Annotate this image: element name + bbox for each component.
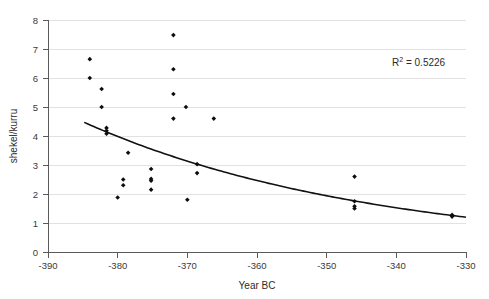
data-point bbox=[352, 206, 357, 211]
x-tick-label-380: -380 bbox=[108, 260, 127, 271]
data-point bbox=[171, 33, 176, 38]
data-point bbox=[171, 116, 176, 121]
x-tick-label-330: -330 bbox=[456, 260, 475, 271]
data-point bbox=[184, 105, 189, 110]
data-point bbox=[99, 105, 104, 110]
y-tick-label-2: 2 bbox=[33, 189, 38, 200]
y-tick-label-1: 1 bbox=[33, 218, 38, 229]
data-point bbox=[195, 162, 200, 167]
data-point bbox=[171, 67, 176, 72]
y-tick-labels: 8 7 6 5 4 3 2 1 0 bbox=[33, 15, 38, 258]
data-point bbox=[115, 195, 120, 200]
y-tick-label-8: 8 bbox=[33, 15, 38, 26]
y-tick-label-3: 3 bbox=[33, 160, 38, 171]
x-axis-title: Year BC bbox=[239, 280, 276, 291]
data-point bbox=[149, 187, 154, 192]
data-point bbox=[185, 198, 190, 203]
x-tick-marks bbox=[48, 252, 466, 258]
data-point bbox=[352, 199, 357, 204]
gridlines bbox=[48, 20, 466, 223]
r-squared-annotation: R2 = 0.5226 bbox=[392, 56, 446, 68]
y-tick-label-4: 4 bbox=[33, 131, 38, 142]
data-point bbox=[352, 174, 357, 179]
x-tick-labels: -390 -380 -370 -360 -350 -340 -330 bbox=[38, 260, 475, 271]
y-tick-marks bbox=[43, 20, 48, 252]
y-tick-label-7: 7 bbox=[33, 44, 38, 55]
data-point bbox=[99, 87, 104, 92]
trendline bbox=[84, 122, 466, 217]
data-point bbox=[149, 167, 154, 172]
data-point bbox=[121, 183, 126, 188]
data-point bbox=[88, 57, 93, 62]
x-tick-label-340: -340 bbox=[387, 260, 406, 271]
x-tick-label-390: -390 bbox=[38, 260, 57, 271]
x-tick-label-350: -350 bbox=[317, 260, 336, 271]
data-point bbox=[121, 177, 126, 182]
scatter-chart: 8 7 6 5 4 3 2 1 0 -390 -380 -370 -360 -3… bbox=[0, 0, 489, 299]
y-axis-title: shekel/kurru bbox=[8, 109, 19, 163]
data-point bbox=[171, 92, 176, 97]
y-tick-label-6: 6 bbox=[33, 73, 38, 84]
y-tick-label-0: 0 bbox=[33, 247, 38, 258]
r-squared-value: = 0.5226 bbox=[403, 57, 445, 68]
chart-canvas: 8 7 6 5 4 3 2 1 0 -390 -380 -370 -360 -3… bbox=[0, 0, 489, 299]
r-squared-prefix: R bbox=[392, 57, 399, 68]
data-point bbox=[195, 171, 200, 176]
y-tick-label-5: 5 bbox=[33, 102, 38, 113]
data-point bbox=[126, 151, 131, 156]
x-tick-label-370: -370 bbox=[178, 260, 197, 271]
data-point bbox=[212, 116, 217, 121]
data-point bbox=[88, 76, 93, 81]
x-tick-label-360: -360 bbox=[247, 260, 266, 271]
